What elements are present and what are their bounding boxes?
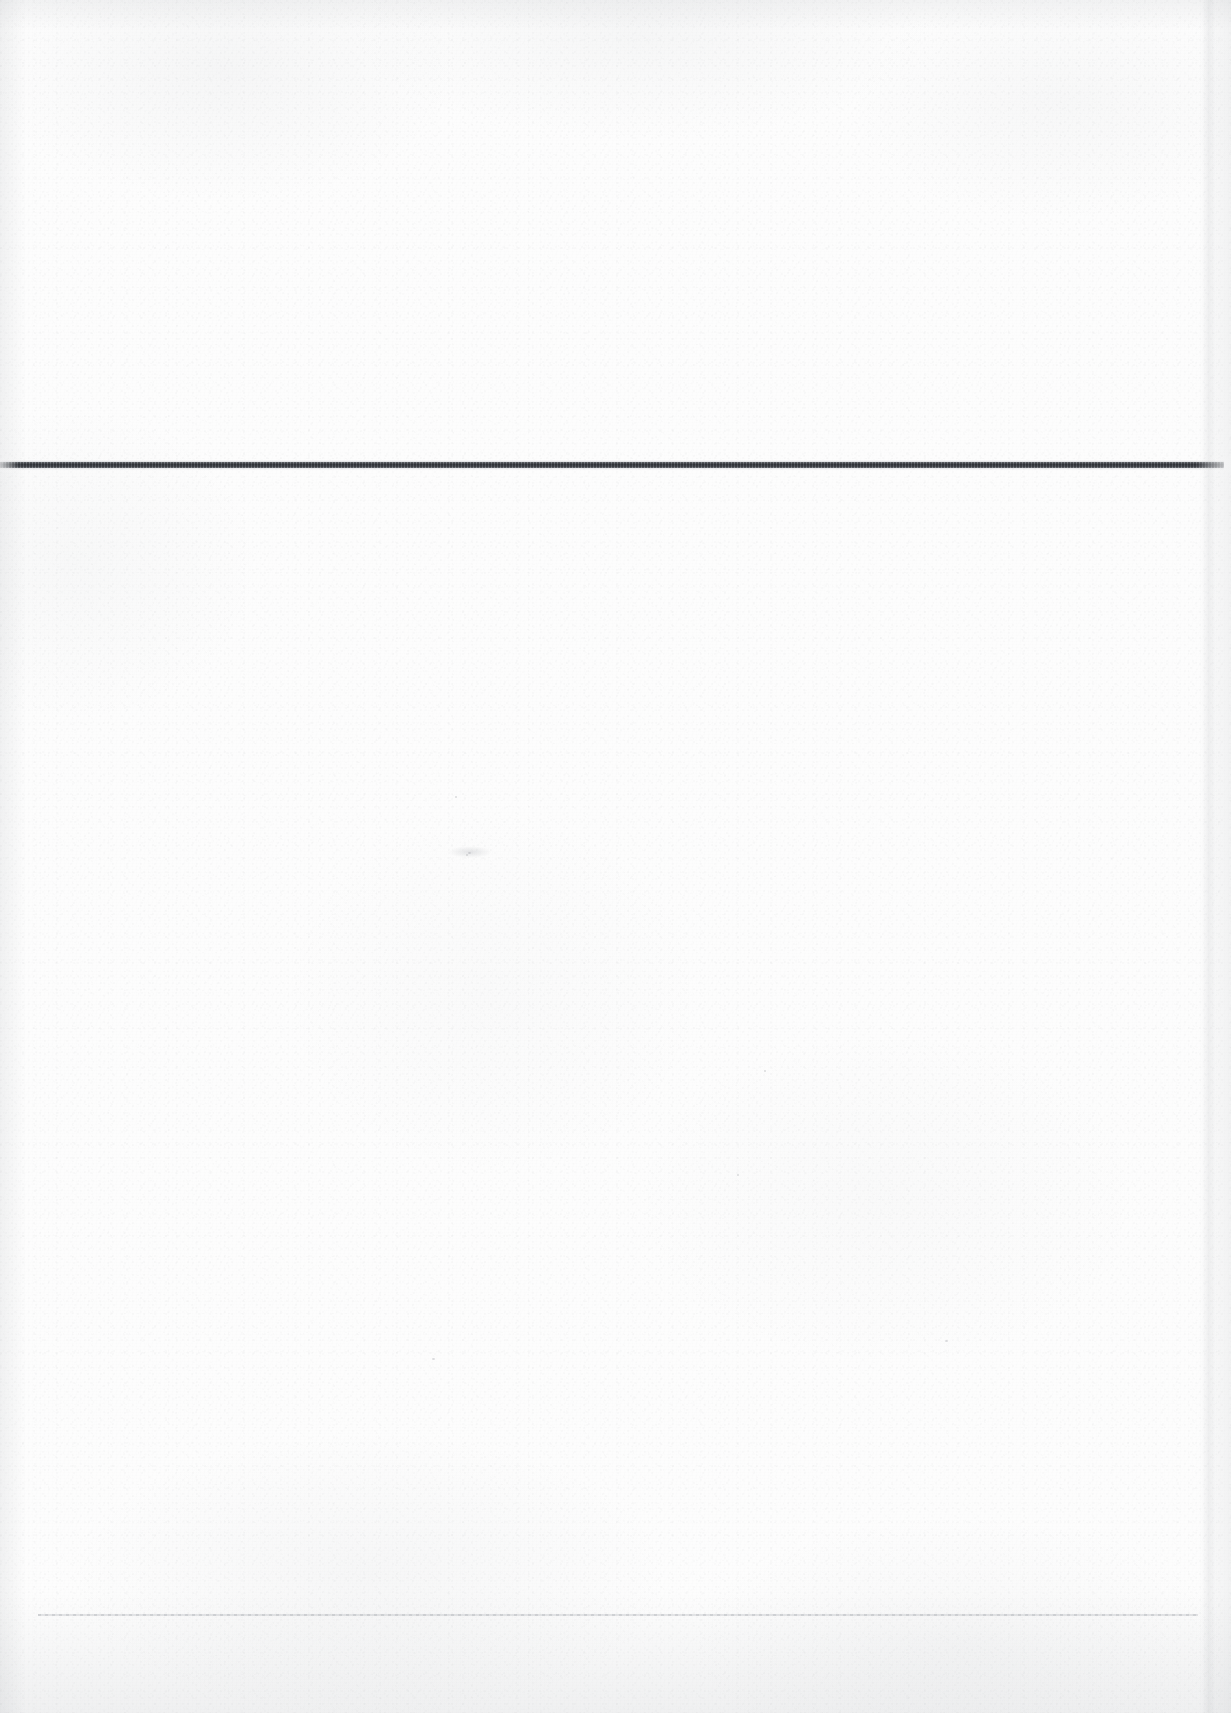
scan-edge-seam	[1202, 0, 1216, 1713]
scanned-page	[0, 0, 1231, 1713]
faint-horizontal-rule	[38, 1614, 1198, 1616]
document-body-text	[90, 520, 1140, 1580]
horizontal-rule	[0, 462, 1224, 468]
